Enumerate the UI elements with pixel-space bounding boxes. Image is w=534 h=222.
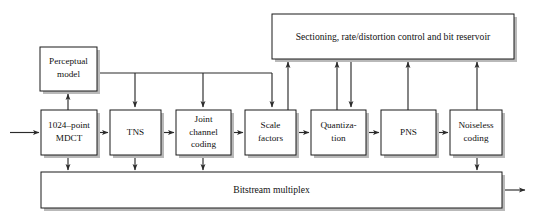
block-bitstream-multiplex-label: Bitstream multiplex <box>233 184 310 195</box>
block-mdct-label-line1: 1024–point <box>48 120 90 130</box>
block-scale-factors: Scale factors <box>245 110 299 158</box>
block-tns: TNS <box>110 110 164 158</box>
block-sectioning: Sectioning, rate/distortion control and … <box>272 14 517 62</box>
block-joint-label-line3: coding <box>191 139 216 149</box>
block-noiseless-label-line1: Noiseless <box>458 120 494 130</box>
block-perceptual-model-label-line1: Perceptual <box>49 56 88 66</box>
block-joint-label-line1: Joint <box>195 114 213 124</box>
block-joint-label-line2: channel <box>189 127 218 137</box>
block-pns-label-line1: PNS <box>400 127 417 137</box>
block-noiseless-label-line2: coding <box>463 133 488 143</box>
block-pns: PNS <box>381 110 439 158</box>
block-quantization-label-line1: Quantiza- <box>320 120 356 130</box>
block-tns-label-line1: TNS <box>127 127 144 137</box>
block-quantization-label-line2: tion <box>331 133 346 143</box>
block-scalefactors-label-line2: factors <box>258 133 283 143</box>
block-bitstream-multiplex: Bitstream multiplex <box>41 172 505 211</box>
block-noiseless-coding: Noiseless coding <box>450 110 505 158</box>
diagram-canvas: Sectioning, rate/distortion control and … <box>0 0 534 222</box>
block-mdct: 1024–point MDCT <box>41 110 100 158</box>
block-perceptual-model-label-line2: model <box>57 69 80 79</box>
block-sectioning-label: Sectioning, rate/distortion control and … <box>296 31 491 42</box>
block-scalefactors-label-line1: Scale <box>261 120 281 130</box>
block-quantization: Quantiza- tion <box>311 110 369 158</box>
block-perceptual-model: Perceptual model <box>40 47 100 94</box>
encoder-block-diagram: Sectioning, rate/distortion control and … <box>0 0 534 222</box>
block-joint-channel-coding: Joint channel coding <box>176 110 234 158</box>
block-mdct-label-line2: MDCT <box>56 133 83 143</box>
